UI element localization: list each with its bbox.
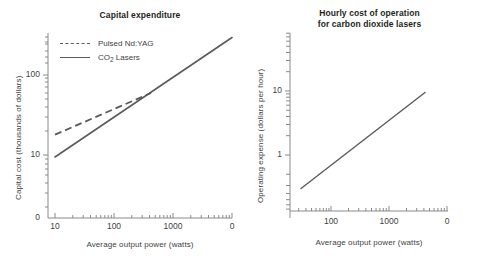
legend-capital-expenditure: Pulsed Nd:YAG CO2 Lasers xyxy=(60,36,153,64)
x-tick-label-1000: 1000 xyxy=(374,216,404,226)
chart-panel-capital-expenditure: Capital expenditure xyxy=(0,0,240,264)
x-tick-label-10000: 0 xyxy=(432,216,462,226)
series-line-operating-expense xyxy=(301,93,425,189)
legend-item-pulsed-ndyag: Pulsed Nd:YAG xyxy=(60,36,153,50)
legend-label-co2-prefix: CO xyxy=(98,53,110,62)
legend-label-pulsed-ndyag: Pulsed Nd:YAG xyxy=(98,39,153,48)
y-axis-title-capital-expenditure: Capital cost (thousands of dollars) xyxy=(14,76,23,200)
legend-item-co2-lasers: CO2 Lasers xyxy=(60,50,153,64)
x-tick-label-1000: 1000 xyxy=(158,221,188,231)
legend-swatch-dashed-icon xyxy=(60,43,90,44)
y-axis-origin-label: 0 xyxy=(6,212,40,222)
legend-label-co2-subscript: 2 xyxy=(110,56,114,63)
x-tick-marks xyxy=(299,206,447,211)
legend-label-co2-lasers: CO2 Lasers xyxy=(98,53,140,62)
y-tick-label-100: 100 xyxy=(6,69,40,79)
legend-swatch-solid-icon xyxy=(60,57,90,58)
y-tick-label-10: 10 xyxy=(248,85,282,95)
x-tick-label-100: 100 xyxy=(316,216,346,226)
y-tick-marks xyxy=(285,33,290,209)
x-axis-title-capital-expenditure: Average output power (watts) xyxy=(48,240,232,249)
x-tick-marks xyxy=(55,213,232,218)
series-line-pulsed-ndyag xyxy=(55,93,151,135)
x-tick-label-100: 100 xyxy=(99,221,129,231)
x-tick-label-10: 10 xyxy=(40,221,70,231)
legend-label-co2-suffix: Lasers xyxy=(114,53,140,62)
figure-container: Capital expenditure xyxy=(0,0,479,264)
y-tick-marks xyxy=(43,37,48,207)
chart-panel-hourly-cost: Hourly cost of operation for carbon diox… xyxy=(240,0,479,264)
y-tick-label-10: 10 xyxy=(6,149,40,159)
x-axis-title-hourly-cost: Average output power (watts) xyxy=(290,238,448,247)
y-tick-label-1: 1 xyxy=(248,149,282,159)
y-axis-title-hourly-cost: Operating expense (dollars per hour) xyxy=(256,69,265,203)
